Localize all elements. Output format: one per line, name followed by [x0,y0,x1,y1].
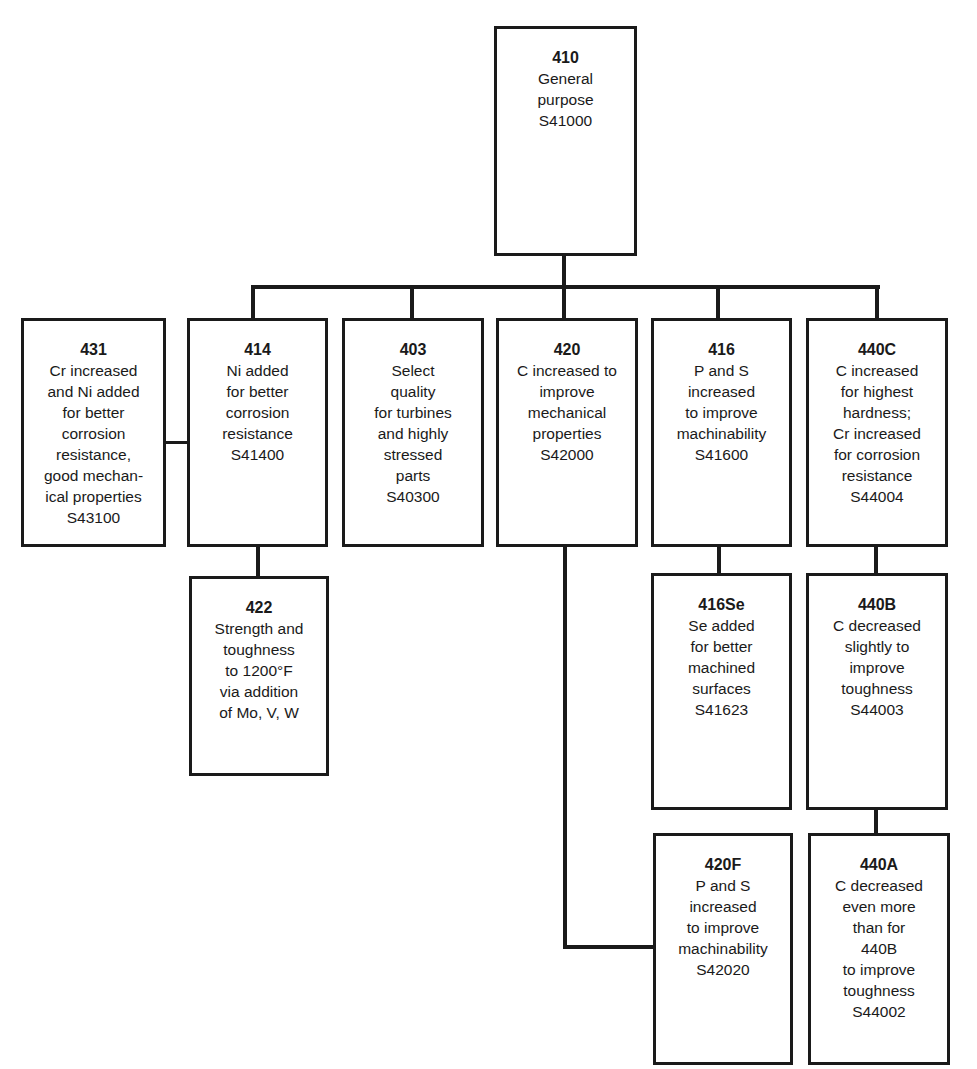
connector-420-420f-vertical [563,545,567,949]
node-code: 440B [809,594,945,615]
node-description: Strength and toughness to 1200°F via add… [192,618,326,723]
connector-440b-440a [874,808,878,835]
connector-bus-403 [410,285,414,320]
node-description: Cr increased and Ni added for better cor… [24,360,163,507]
node-440c: 440C C increased for highest hardness; C… [806,318,948,547]
connector-416-416se [717,545,721,575]
node-description: C decreased slightly to improve toughnes… [809,615,945,699]
node-uns-number: S42020 [656,959,790,980]
node-uns-number: S42000 [499,444,635,465]
node-code: 410 [497,47,634,68]
node-uns-number: S44004 [809,486,945,507]
node-uns-number: S44003 [809,699,945,720]
connector-410-down [562,254,566,289]
node-description: C increased for highest hardness; Cr inc… [809,360,945,486]
node-code: 416 [654,339,789,360]
node-code: 420F [656,854,790,875]
connector-bus-440c [875,285,879,320]
node-416se: 416Se Se added for better machined surfa… [651,573,792,810]
node-code: 431 [24,339,163,360]
node-code: 403 [345,339,481,360]
node-code: 440C [809,339,945,360]
node-description: P and S increased to improve machinabili… [654,360,789,444]
node-410: 410 General purpose S41000 [494,26,637,256]
node-description: Ni added for better corrosion resistance [190,360,325,444]
node-uns-number: S40300 [345,486,481,507]
node-code: 440A [811,854,947,875]
node-description: C decreased even more than for 440B to i… [811,875,947,1001]
stainless-steel-family-diagram: 410 General purpose S41000 431 Cr increa… [0,0,977,1069]
node-414: 414 Ni added for better corrosion resist… [187,318,328,547]
connector-420-420f-horizontal [563,945,655,949]
connector-440c-440b [874,545,878,575]
node-description: General purpose [497,68,634,110]
node-416: 416 P and S increased to improve machina… [651,318,792,547]
node-code: 422 [192,597,326,618]
node-420: 420 C increased to improve mechanical pr… [496,318,638,547]
node-description: C increased to improve mechanical proper… [499,360,635,444]
node-422: 422 Strength and toughness to 1200°F via… [189,576,329,776]
node-431: 431 Cr increased and Ni added for better… [21,318,166,547]
node-description: Se added for better machined surfaces [654,615,789,699]
connector-414-422 [256,545,260,578]
node-uns-number: S41623 [654,699,789,720]
node-code: 414 [190,339,325,360]
node-uns-number: S41000 [497,110,634,131]
node-440a: 440A C decreased even more than for 440B… [808,833,950,1065]
node-description: Select quality for turbines and highly s… [345,360,481,486]
node-uns-number: S44002 [811,1001,947,1022]
node-uns-number: S41600 [654,444,789,465]
connector-bus-420 [562,285,566,320]
node-description: P and S increased to improve machinabili… [656,875,790,959]
node-403: 403 Select quality for turbines and high… [342,318,484,547]
node-420f: 420F P and S increased to improve machin… [653,833,793,1065]
connector-bus-416 [716,285,720,320]
connector-bus-414 [251,285,255,320]
node-code: 416Se [654,594,789,615]
node-440b: 440B C decreased slightly to improve tou… [806,573,948,810]
node-uns-number: S41400 [190,444,325,465]
node-uns-number: S43100 [24,507,163,528]
node-code: 420 [499,339,635,360]
